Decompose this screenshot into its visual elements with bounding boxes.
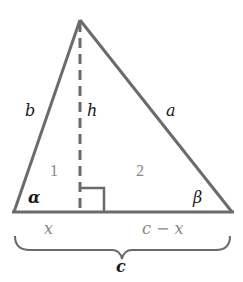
base-c-label: c (116, 257, 126, 276)
side-a-line (80, 20, 232, 212)
region-1-label: 1 (50, 162, 58, 179)
segment-x-label: x (44, 219, 53, 238)
side-a-label: a (166, 101, 176, 120)
segment-c-minus-x-label: c − x (142, 219, 184, 238)
region-2-label: 2 (136, 162, 144, 179)
angle-beta-label: β (192, 188, 202, 207)
triangle-diagram: b h a 1 2 α β x c − x c (0, 0, 243, 282)
base-brace (15, 236, 230, 259)
angle-alpha-label: α (28, 188, 40, 207)
side-b-label: b (25, 101, 35, 120)
side-b-line (14, 20, 80, 212)
altitude-h-label: h (87, 101, 97, 120)
right-angle-marker (80, 188, 104, 212)
